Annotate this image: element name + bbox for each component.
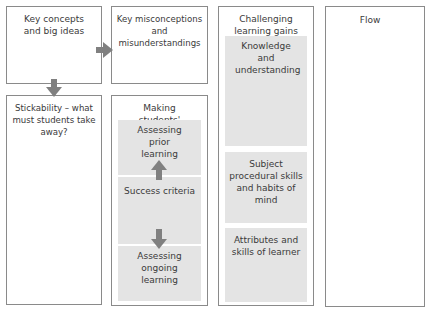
learning-visible-box: Making students' learning visible Assess…	[111, 95, 208, 306]
stickability-box: Stickability – what must students take a…	[6, 95, 102, 305]
attributes-skills-section: Attributes and skills of learner	[225, 228, 307, 302]
challenging-learning-gains-box: Challenging learning gains Knowledge and…	[218, 6, 314, 306]
assessing-ongoing-learning-section: Assessing ongoing learning	[118, 246, 201, 301]
flow-box: Flow	[325, 6, 425, 307]
procedural-skills-label: Subject procedural skills and habits of …	[227, 158, 305, 206]
flow-title: Flow	[326, 14, 414, 26]
knowledge-understanding-label: Knowledge and understanding	[227, 40, 305, 76]
assessing-ongoing-learning-label: Assessing ongoing learning	[120, 250, 199, 286]
key-concepts-title: Key concepts and big ideas	[7, 13, 101, 37]
attributes-skills-label: Attributes and skills of learner	[227, 234, 305, 258]
arrow-up-icon	[151, 160, 167, 180]
assessing-prior-learning-label: Assessing prior learning	[120, 124, 199, 160]
arrow-down-icon	[46, 79, 62, 98]
key-misconceptions-title: Key misconceptions and misunderstandings	[112, 13, 207, 49]
arrow-down-icon	[151, 229, 167, 249]
key-concepts-box: Key concepts and big ideas	[6, 6, 102, 84]
success-criteria-label: Success criteria	[120, 185, 199, 197]
knowledge-understanding-section: Knowledge and understanding	[225, 36, 307, 146]
challenging-learning-gains-title: Challenging learning gains	[219, 13, 313, 37]
stickability-title: Stickability – what must students take a…	[7, 102, 101, 138]
key-misconceptions-box: Key misconceptions and misunderstandings	[111, 6, 208, 84]
arrow-right-icon	[96, 42, 114, 58]
procedural-skills-section: Subject procedural skills and habits of …	[225, 152, 307, 223]
